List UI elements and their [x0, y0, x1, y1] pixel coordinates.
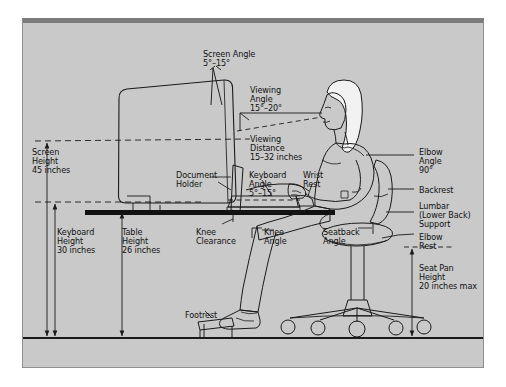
- label-wrist-rest: Wrist Rest: [303, 171, 323, 189]
- label-screen-height: Screen Height 45 inches: [32, 148, 70, 176]
- label-knee-clearance: Knee Clearance: [196, 228, 236, 246]
- label-keyboard-angle: Keyboard Angle 5°–15°: [249, 171, 286, 199]
- label-elbow-angle: Elbow Angle 90°: [419, 148, 443, 176]
- label-seat-pan-height: Seat Pan Height 20 inches max: [419, 264, 477, 292]
- label-screen-angle: Screen Angle 5°–15°: [203, 50, 255, 68]
- label-lumbar-support: Lumbar (Lower Back) Support: [419, 202, 471, 230]
- label-backrest: Backrest: [419, 186, 453, 195]
- label-footrest: Footrest: [185, 311, 217, 320]
- label-knee-angle: Knee Angle: [264, 228, 287, 246]
- label-seatback-angle: Seatback Angle: [323, 228, 360, 246]
- label-document-holder: Document Holder: [176, 171, 217, 189]
- label-viewing-distance: Viewing Distance 15–32 inches: [250, 135, 302, 163]
- label-keyboard-height: Keyboard Height 30 inches: [57, 228, 95, 256]
- label-elbow-rest: Elbow Rest: [419, 233, 443, 251]
- label-table-height: Table Height 26 inches: [122, 228, 160, 256]
- label-viewing-angle: Viewing Angle 15°–20°: [250, 86, 282, 114]
- ergonomics-diagram: Screen Angle 5°–15° Viewing Angle 15°–20…: [0, 0, 506, 387]
